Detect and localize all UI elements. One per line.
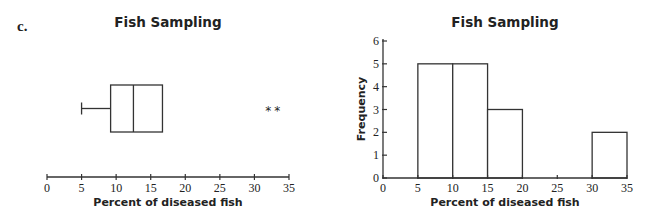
x-tick-label: 35 [283,181,295,195]
charts-canvas: Fish Sampling05101520253035Percent of di… [0,0,657,222]
outlier-marker: * [274,104,280,118]
x-tick-label: 10 [447,181,459,195]
x-tick-label: 30 [586,181,598,195]
histogram-chart: Fish Sampling051015202530350123456Percen… [355,14,633,209]
x-tick-label: 25 [214,181,226,195]
y-tick-label: 0 [373,171,379,185]
box [111,85,163,132]
histogram-bar [418,64,453,178]
histogram-title: Fish Sampling [451,14,558,30]
x-tick-label: 30 [248,181,260,195]
x-tick-label: 0 [380,181,386,195]
x-tick-label: 25 [551,181,563,195]
x-tick-label: 5 [79,181,85,195]
x-tick-label: 0 [44,181,50,195]
x-tick-label: 10 [110,181,122,195]
y-axis-label: Frequency [355,77,368,141]
y-tick-label: 4 [373,80,379,94]
boxplot-title: Fish Sampling [114,14,221,30]
part-label: c. [17,18,27,35]
y-tick-label: 6 [373,34,379,48]
x-tick-label: 15 [482,181,494,195]
x-axis-label: Percent of diseased fish [93,196,242,209]
histogram-bar [592,132,627,178]
y-tick-label: 1 [373,148,379,162]
y-tick-label: 2 [373,125,379,139]
figure: c. Fish Sampling05101520253035Percent of… [0,0,657,222]
y-tick-label: 3 [373,103,379,117]
boxplot-chart: Fish Sampling05101520253035Percent of di… [44,14,295,209]
x-tick-label: 20 [179,181,191,195]
histogram-bar [488,110,523,179]
x-tick-label: 35 [621,181,633,195]
histogram-bar [453,64,488,178]
x-axis-label: Percent of diseased fish [430,196,579,209]
outlier-marker: * [265,104,271,118]
x-tick-label: 20 [516,181,528,195]
x-tick-label: 15 [145,181,157,195]
y-tick-label: 5 [373,57,379,71]
x-tick-label: 5 [415,181,421,195]
